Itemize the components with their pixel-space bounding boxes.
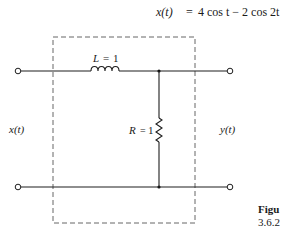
resistor-icon (156, 118, 162, 142)
input-terminal-bottom (15, 184, 21, 190)
figure-caption-prefix: Figu (258, 203, 279, 215)
inductor-label: L = 1 (92, 52, 119, 64)
output-label: y(t) (219, 123, 236, 136)
output-terminal-bottom (227, 184, 233, 190)
output-terminal-top (227, 68, 233, 74)
resistor-eq: = (140, 125, 146, 136)
resistor-value: 1 (148, 124, 154, 136)
resistor-symbol: R (128, 124, 136, 136)
equation-lhs: x(t) (155, 5, 173, 19)
equation: x(t) = 4 cos t − 2 cos 2t (155, 5, 280, 19)
resistor-label: R = 1 (128, 124, 154, 136)
circuit-diagram: x(t) = 4 cos t − 2 cos 2t L = 1 R = 1 x(… (0, 0, 281, 237)
input-label: x(t) (8, 123, 25, 136)
inductor-symbol: L (92, 52, 99, 64)
inductor-eq: = (103, 52, 109, 64)
equation-rhs: 4 cos t − 2 cos 2t (198, 5, 280, 19)
inductor-value: 1 (113, 52, 119, 64)
system-box (53, 37, 195, 223)
input-terminal-top (15, 68, 21, 74)
inductor-icon (91, 67, 119, 72)
equation-equals: = (186, 5, 193, 19)
figure-caption-number: 3.6.2 (258, 216, 280, 228)
